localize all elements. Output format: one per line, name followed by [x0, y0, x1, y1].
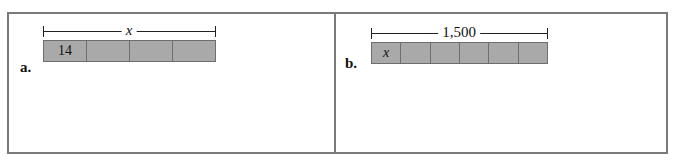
tape-bracket-a: x — [43, 26, 216, 38]
bracket-tick-right — [547, 28, 548, 39]
tape-cell — [519, 43, 547, 63]
panel-divider — [334, 12, 336, 154]
tape-cell — [460, 43, 489, 63]
tape-bar-b: x — [371, 42, 548, 64]
panel-label-a: a. — [20, 59, 31, 76]
tape-cell — [401, 43, 430, 63]
tape-cell — [130, 41, 173, 61]
tape-bracket-b: 1,500 — [371, 28, 548, 40]
bracket-tick-right — [215, 26, 216, 37]
tape-cell: 14 — [44, 41, 87, 61]
tape-cell — [87, 41, 130, 61]
tape-bar-a: 14 — [43, 40, 216, 62]
bracket-label: 1,500 — [438, 24, 480, 41]
bracket-tick-left — [43, 26, 44, 37]
tape-cell — [489, 43, 518, 63]
bracket-label: x — [122, 22, 137, 39]
tape-cell: x — [372, 43, 401, 63]
panel-label-b: b. — [345, 55, 357, 72]
bracket-tick-left — [371, 28, 372, 39]
tape-cell — [431, 43, 460, 63]
tape-cell — [173, 41, 215, 61]
